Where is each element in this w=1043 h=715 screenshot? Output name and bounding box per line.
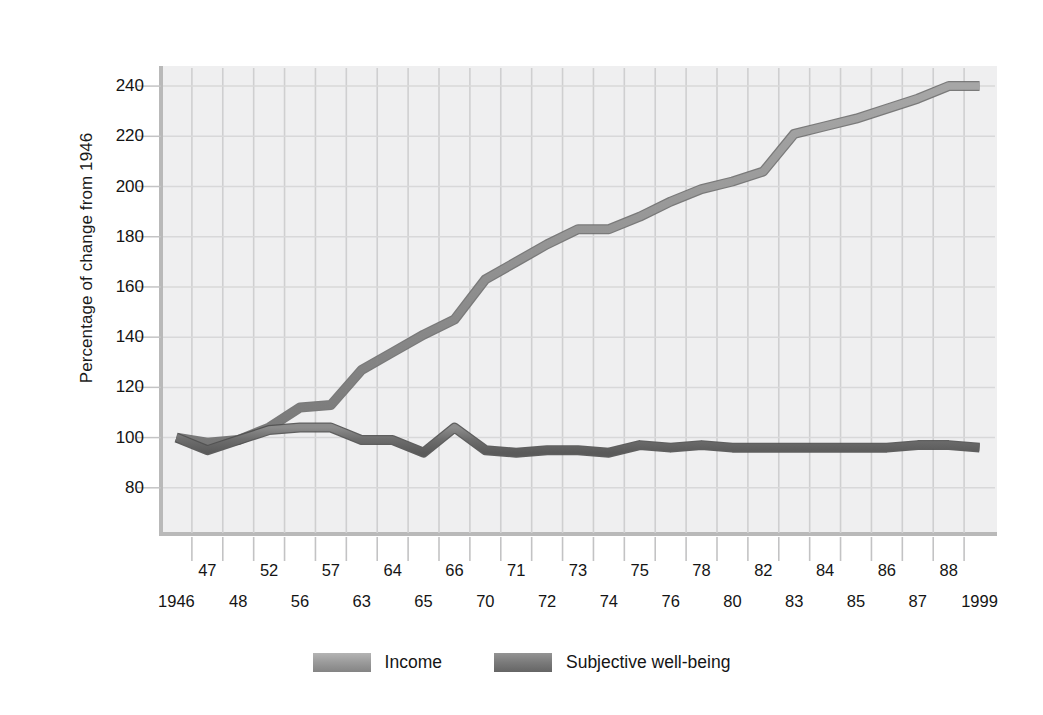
y-tick-label: 140 <box>88 327 144 347</box>
x-tick-label: 86 <box>860 560 914 580</box>
data-series-lines <box>176 86 979 453</box>
x-tick-label: 74 <box>582 591 636 611</box>
series-line-subjective-well-being <box>176 428 979 453</box>
y-tick-label: 120 <box>88 377 144 397</box>
legend-label-subjective-well-being: Subjective well-being <box>566 652 730 672</box>
y-tick-label: 220 <box>88 126 144 146</box>
x-tick-label: 76 <box>644 591 698 611</box>
x-tick-label: 88 <box>922 560 976 580</box>
legend-swatch-subjective-well-being <box>494 653 552 672</box>
legend-label-income: Income <box>385 652 442 672</box>
x-tick-label: 1999 <box>953 591 1007 611</box>
legend-item-income: Income <box>313 652 442 672</box>
x-tick-label: 64 <box>366 560 420 580</box>
x-tick-label: 57 <box>304 560 358 580</box>
y-tick-label: 240 <box>88 76 144 96</box>
x-tick-label: 1946 <box>149 591 203 611</box>
y-tick-label: 100 <box>88 428 144 448</box>
x-tick-label: 85 <box>829 591 883 611</box>
x-tick-label: 70 <box>458 591 512 611</box>
y-tick-label: 180 <box>88 227 144 247</box>
x-tick-label: 80 <box>705 591 759 611</box>
series-line-shadow-0 <box>176 86 979 443</box>
x-tick-label: 84 <box>798 560 852 580</box>
vertical-gridlines <box>192 68 964 533</box>
x-axis-tickmarks <box>192 537 964 561</box>
x-tick-label: 71 <box>489 560 543 580</box>
x-tick-label: 52 <box>242 560 296 580</box>
chart-legend: Income Subjective well-being <box>0 645 1043 679</box>
chart-figure: Percentage of change from 1946 <box>0 0 1043 715</box>
x-tick-label: 47 <box>180 560 234 580</box>
x-tick-label: 78 <box>675 560 729 580</box>
legend-item-subjective-well-being: Subjective well-being <box>494 652 730 672</box>
series-line-income <box>176 86 979 443</box>
x-tick-label: 82 <box>736 560 790 580</box>
x-tick-label: 66 <box>427 560 481 580</box>
y-tick-label: 160 <box>88 277 144 297</box>
x-tick-label: 63 <box>335 591 389 611</box>
x-tick-label: 83 <box>767 591 821 611</box>
x-tick-label: 56 <box>273 591 327 611</box>
y-tick-label: 80 <box>88 478 144 498</box>
x-tick-label: 72 <box>520 591 574 611</box>
x-tick-label: 73 <box>551 560 605 580</box>
y-tick-label: 200 <box>88 177 144 197</box>
x-tick-label: 87 <box>891 591 945 611</box>
legend-swatch-income <box>313 653 371 672</box>
x-tick-label: 75 <box>613 560 667 580</box>
x-tick-label: 48 <box>211 591 265 611</box>
x-tick-label: 65 <box>397 591 451 611</box>
